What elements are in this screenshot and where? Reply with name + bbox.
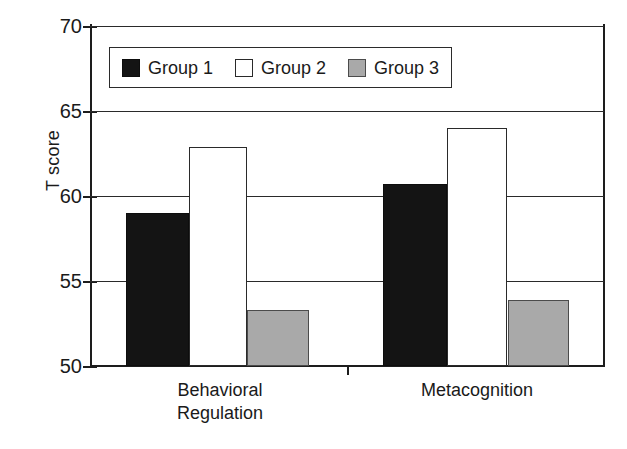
legend-entry-group-2[interactable]: Group 2: [235, 59, 326, 77]
legend-swatch-icon-group-2: [235, 59, 253, 77]
legend-label-group-2: Group 2: [261, 59, 326, 77]
y-tick-label-50: 50: [36, 356, 82, 376]
y-tick-label-55: 55: [36, 271, 82, 291]
gridline-70: [90, 26, 604, 27]
bar-group3-metacognition[interactable]: [508, 300, 569, 366]
x-axis-category-label-metacognition: Metacognition: [397, 379, 557, 402]
legend-label-group-1: Group 1: [148, 59, 213, 77]
y-tick-label-60: 60: [36, 186, 82, 206]
bar-group2-metacognition[interactable]: [447, 128, 507, 366]
bar-group3-behavioral-regulation[interactable]: [247, 310, 309, 366]
legend-swatch-icon-group-1: [122, 59, 140, 77]
gridline-65: [90, 111, 604, 112]
y-tick-label-65: 65: [36, 101, 82, 121]
bar-group1-metacognition[interactable]: [383, 184, 447, 366]
gridline-60: [90, 196, 604, 197]
x-axis-tick-mark-middle: [347, 366, 349, 375]
y-tick-label-70: 70: [36, 16, 82, 36]
legend[interactable]: Group 1 Group 2 Group 3: [109, 47, 452, 88]
bar-group2-behavioral-regulation[interactable]: [189, 147, 247, 366]
x-axis-category-label-behavioral-regulation: Behavioral Regulation: [140, 379, 300, 425]
y-axis-tick-labels: 70 65 60 55 50: [34, 0, 82, 449]
bar-group1-behavioral-regulation[interactable]: [126, 213, 189, 366]
bar-chart-figure: T score 70 65 60 55 50: [0, 0, 627, 449]
legend-entry-group-1[interactable]: Group 1: [122, 59, 213, 77]
legend-entry-group-3[interactable]: Group 3: [348, 59, 439, 77]
legend-label-group-3: Group 3: [374, 59, 439, 77]
legend-swatch-icon-group-3: [348, 59, 366, 77]
